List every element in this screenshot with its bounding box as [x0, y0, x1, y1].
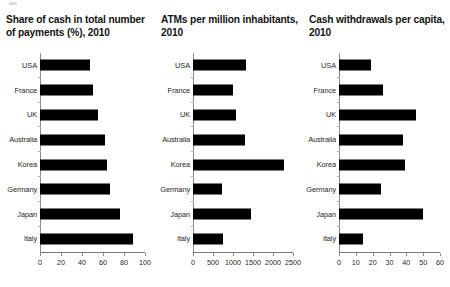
x-axis-tick	[253, 253, 254, 256]
x-axis-line	[40, 252, 145, 253]
bar-row: Germany	[0, 177, 155, 202]
y-axis-tick	[191, 176, 194, 177]
bar	[40, 134, 105, 145]
x-axis-tick-label: 40	[78, 258, 86, 267]
bar-track	[193, 53, 303, 78]
bar-row: Italy	[303, 227, 450, 252]
x-axis-tick	[273, 253, 274, 256]
bar-row: USA	[155, 53, 303, 78]
y-axis-tick	[337, 77, 340, 78]
y-axis-tick	[191, 226, 194, 227]
x-axis-tick	[390, 253, 391, 256]
category-label: USA	[155, 61, 193, 70]
bar-row: USA	[0, 53, 155, 78]
x-axis-tick	[423, 253, 424, 256]
bar-track	[339, 53, 450, 78]
x-axis-tick-label: 1000	[225, 258, 241, 267]
category-label: Australia	[303, 135, 339, 144]
bar	[339, 134, 403, 145]
x-axis-tick	[356, 253, 357, 256]
category-label: Japan	[303, 210, 339, 219]
x-axis-tick	[145, 253, 146, 256]
category-label: USA	[303, 61, 339, 70]
bar	[193, 134, 245, 145]
bar	[40, 184, 110, 195]
bar-row: UK	[303, 103, 450, 128]
bar-track	[339, 177, 450, 202]
plot-area: USAFranceUKAustraliaKoreaGermanyJapanIta…	[303, 53, 450, 287]
bar-track	[40, 53, 155, 78]
category-label: Italy	[0, 234, 40, 243]
x-axis-tick	[61, 253, 62, 256]
bar	[339, 209, 423, 220]
bar	[193, 233, 223, 244]
bar-track	[193, 78, 303, 103]
bar	[339, 109, 416, 120]
bar-track	[339, 202, 450, 227]
bar-track	[339, 103, 450, 128]
category-label: France	[0, 86, 40, 95]
x-axis-tick	[103, 253, 104, 256]
category-label: Japan	[155, 210, 193, 219]
bar-row: Korea	[155, 152, 303, 177]
bar-row: Korea	[0, 152, 155, 177]
x-axis: 020406080100	[0, 252, 155, 282]
category-label: Australia	[0, 135, 40, 144]
bar	[339, 184, 381, 195]
bar	[40, 85, 93, 96]
x-axis: 0102030405060	[303, 252, 450, 282]
x-axis-tick	[339, 253, 340, 256]
y-axis-tick	[38, 126, 41, 127]
chart-panel-atms-per-million: ATMs per million inhabitants, 2010 USAFr…	[155, 0, 303, 287]
x-axis-tick-label: 10	[352, 258, 360, 267]
bar-row: Australia	[303, 127, 450, 152]
y-axis-tick	[38, 102, 41, 103]
bar-row: Germany	[155, 177, 303, 202]
plot-area: USAFranceUKAustraliaKoreaGermanyJapanIta…	[0, 53, 155, 287]
bar-row: Italy	[155, 227, 303, 252]
x-axis-tick-label: 60	[99, 258, 107, 267]
x-axis-tick-label: 20	[369, 258, 377, 267]
category-label: UK	[303, 110, 339, 119]
bar-track	[40, 78, 155, 103]
category-label: Germany	[0, 185, 40, 194]
y-axis-tick	[191, 102, 194, 103]
x-axis-tick-label: 80	[120, 258, 128, 267]
y-axis-tick	[191, 151, 194, 152]
x-axis-tick-label: 50	[419, 258, 427, 267]
bar	[40, 60, 90, 71]
y-axis-tick	[337, 151, 340, 152]
bar-row: UK	[0, 103, 155, 128]
panel-title: ATMs per million inhabitants, 2010	[161, 0, 303, 39]
bar-row: Australia	[0, 127, 155, 152]
scan-artifact	[9, 2, 17, 5]
x-axis-tick	[124, 253, 125, 256]
y-axis-tick	[337, 201, 340, 202]
x-axis-tick-label: 2500	[285, 258, 301, 267]
y-axis-tick	[337, 126, 340, 127]
y-axis-tick	[38, 77, 41, 78]
bar-track	[193, 103, 303, 128]
x-axis-tick-label: 500	[207, 258, 219, 267]
bar-track	[193, 177, 303, 202]
x-axis-tick	[293, 253, 294, 256]
bar	[339, 85, 383, 96]
x-axis-tick	[440, 253, 441, 256]
bar-row: Japan	[155, 202, 303, 227]
bar-row: France	[0, 78, 155, 103]
x-axis-tick-label: 60	[436, 258, 444, 267]
bar-track	[40, 127, 155, 152]
category-label: Germany	[303, 185, 339, 194]
category-label: Germany	[155, 185, 193, 194]
panel-title: Share of cash in total number of payment…	[6, 0, 155, 39]
bar	[193, 109, 236, 120]
y-axis-tick	[337, 102, 340, 103]
bar	[193, 209, 251, 220]
bar-track	[40, 103, 155, 128]
x-axis-tick	[40, 253, 41, 256]
y-axis-tick	[191, 201, 194, 202]
bar	[40, 233, 133, 244]
category-label: UK	[0, 110, 40, 119]
x-axis-tick	[406, 253, 407, 256]
x-axis: 05001000150020002500	[155, 252, 303, 282]
